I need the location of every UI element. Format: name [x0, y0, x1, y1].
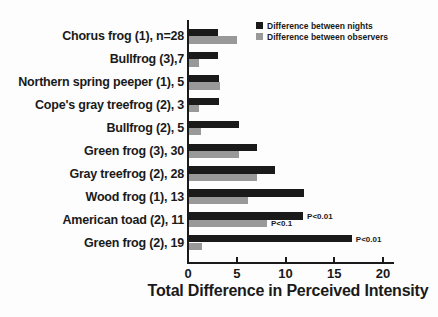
- x-axis-tick: [333, 257, 335, 262]
- category-label: Green frog (3), 30: [0, 144, 184, 158]
- x-tick-label: 5: [233, 266, 240, 281]
- category-label: Bullfrog (3),7: [0, 52, 184, 66]
- bar-nights: [189, 98, 219, 105]
- significance-label: P<0.01: [356, 234, 382, 243]
- bar-nights: [189, 52, 218, 59]
- significance-label: P<0.01: [307, 211, 333, 220]
- x-tick-label: 0: [184, 266, 191, 281]
- bar-observers: [189, 36, 237, 43]
- bar-observers: [189, 151, 239, 158]
- bar-observers: [189, 174, 257, 181]
- significance-label: P<0.1: [271, 219, 292, 228]
- legend-swatch-nights-icon: [256, 22, 263, 29]
- category-label: Green frog (2), 19: [0, 236, 184, 250]
- legend-item-observers: Difference between observers: [256, 31, 388, 42]
- bar-nights: [189, 144, 257, 151]
- category-label: Wood frog (1), 13: [0, 190, 184, 204]
- bar-observers: [189, 220, 267, 227]
- x-axis-tick: [382, 257, 384, 262]
- bar-observers: [189, 197, 248, 204]
- x-tick-label: 15: [327, 266, 341, 281]
- category-label: Chorus frog (1), n=28: [0, 29, 184, 43]
- x-axis-line: [187, 262, 394, 264]
- legend-swatch-observers-icon: [256, 33, 263, 40]
- bar-chart-figure: 05101520Chorus frog (1), n=28Bullfrog (3…: [0, 0, 438, 317]
- legend-item-nights: Difference between nights: [256, 20, 388, 31]
- category-label: Bullfrog (2), 5: [0, 121, 184, 135]
- bar-observers: [189, 105, 199, 112]
- legend-label-nights: Difference between nights: [267, 21, 373, 31]
- category-label: American toad (2), 11: [0, 213, 184, 227]
- bar-nights: [189, 189, 304, 196]
- legend-label-observers: Difference between observers: [267, 32, 388, 42]
- category-label: Cope's gray treefrog (2), 3: [0, 98, 184, 112]
- bar-nights: [189, 166, 275, 173]
- bar-observers: [189, 59, 199, 66]
- x-axis-title: Total Difference in Perceived Intensity: [138, 282, 438, 300]
- bar-nights: [189, 75, 219, 82]
- category-label: Northern spring peeper (1), 5: [0, 75, 184, 89]
- x-axis-tick: [236, 257, 238, 262]
- x-tick-label: 10: [278, 266, 292, 281]
- bar-observers: [189, 82, 220, 89]
- legend: Difference between nights Difference bet…: [256, 20, 388, 42]
- category-label: Gray treefrog (2), 28: [0, 167, 184, 181]
- bar-nights: [189, 121, 239, 128]
- bar-observers: [189, 128, 201, 135]
- bar-nights: [189, 29, 218, 36]
- bar-observers: [189, 243, 202, 250]
- x-axis-tick: [285, 257, 287, 262]
- bar-nights: [189, 235, 352, 242]
- x-tick-label: 20: [376, 266, 390, 281]
